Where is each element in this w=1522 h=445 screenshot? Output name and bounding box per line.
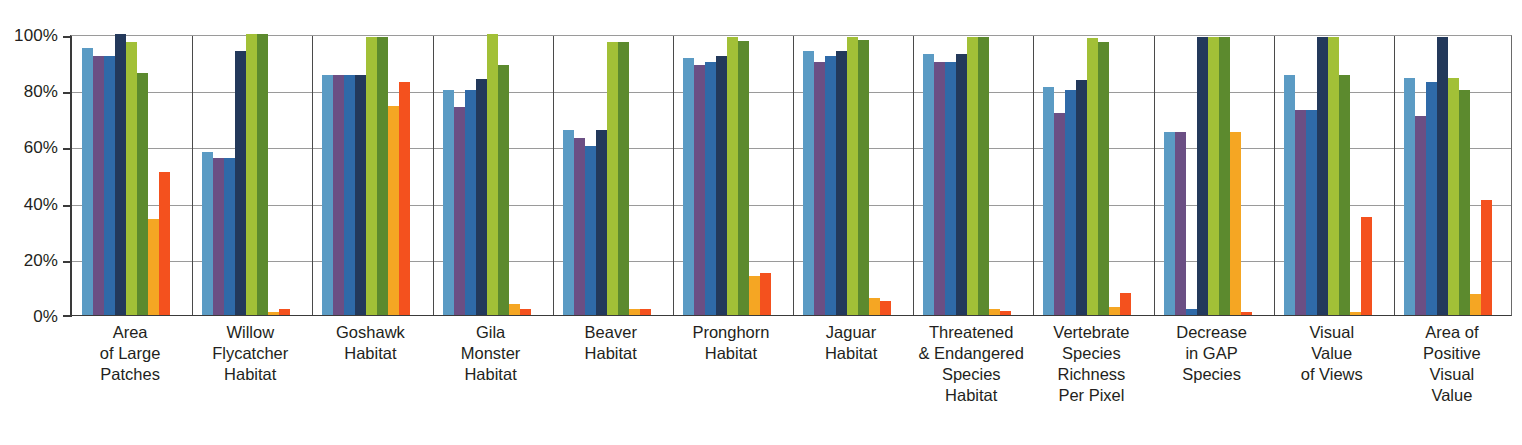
x-category-label-line: of Views	[1272, 364, 1392, 385]
x-category-label-line: Value	[1392, 385, 1512, 406]
bar	[1241, 312, 1252, 315]
bar-group	[683, 36, 771, 315]
bar	[465, 90, 476, 315]
y-tick-label: 20%	[24, 252, 58, 269]
bar	[1361, 217, 1372, 315]
bar	[1208, 37, 1219, 315]
x-category-label-line: Habitat	[190, 364, 310, 385]
y-tick-label: 100%	[14, 27, 58, 44]
bar	[1437, 37, 1448, 315]
bar	[476, 79, 487, 315]
bar	[956, 54, 967, 315]
bar	[574, 138, 585, 315]
y-tick-label: 80%	[24, 83, 58, 100]
x-category-label-line: Habitat	[911, 385, 1031, 406]
bar	[1098, 42, 1109, 315]
y-tick-label: 0%	[33, 308, 58, 325]
bar	[82, 48, 93, 315]
bar	[618, 42, 629, 315]
bar	[344, 75, 355, 315]
bar-group	[1164, 36, 1252, 315]
bar	[640, 309, 651, 315]
bar	[1175, 132, 1186, 315]
bar	[825, 56, 836, 315]
bar	[235, 51, 246, 315]
y-tick-label: 60%	[24, 139, 58, 156]
bar	[1230, 132, 1241, 315]
bar	[596, 130, 607, 315]
bar	[1481, 200, 1492, 315]
bar	[989, 309, 1000, 315]
bar	[520, 309, 531, 315]
bar	[509, 304, 520, 315]
bar	[355, 75, 366, 315]
bar	[148, 219, 159, 315]
x-category-label: GoshawkHabitat	[310, 322, 430, 364]
bar	[104, 56, 115, 315]
bar	[1000, 311, 1011, 315]
bar	[268, 312, 279, 315]
bar	[1426, 82, 1437, 315]
bar	[498, 65, 509, 315]
x-category-label-line: of Large	[70, 343, 190, 364]
bar	[814, 62, 825, 315]
bar-group	[923, 36, 1011, 315]
bar	[1415, 116, 1426, 316]
bar	[1448, 78, 1459, 315]
x-category-label-line: Area	[70, 322, 190, 343]
x-category-label-line: Beaver	[551, 322, 671, 343]
x-category-label-line: Species	[1031, 343, 1151, 364]
bar	[399, 82, 410, 315]
bar	[257, 34, 268, 315]
bar	[137, 73, 148, 315]
bar	[585, 146, 596, 315]
bar	[629, 309, 640, 315]
x-category-label-line: Habitat	[310, 343, 430, 364]
bar-group	[1404, 36, 1492, 315]
y-tick-label: 40%	[24, 196, 58, 213]
bar	[760, 273, 771, 315]
x-category-label-line: Area of	[1392, 322, 1512, 343]
bar	[322, 75, 333, 315]
x-axis-category-labels: Areaof LargePatchesWillowFlycatcherHabit…	[70, 322, 1512, 442]
bar	[749, 276, 760, 315]
x-category-label-line: Pronghorn	[671, 322, 791, 343]
top-edge-artifact	[74, 0, 264, 9]
bar	[934, 62, 945, 315]
bar	[224, 158, 235, 315]
bar	[1306, 110, 1317, 315]
x-category-label-line: Threatened	[911, 322, 1031, 343]
x-category-label: GilaMonsterHabitat	[431, 322, 551, 385]
bar	[978, 37, 989, 315]
bar	[1295, 110, 1306, 315]
bar	[213, 158, 224, 315]
bar	[1087, 38, 1098, 315]
bar	[388, 106, 399, 315]
bar	[716, 56, 727, 315]
x-category-label-line: Decrease	[1152, 322, 1272, 343]
x-category-label-line: Positive	[1392, 343, 1512, 364]
x-category-label-line: Per Pixel	[1031, 385, 1151, 406]
bar	[880, 301, 891, 315]
bar	[803, 51, 814, 315]
bar	[1284, 75, 1295, 315]
bar	[727, 37, 738, 315]
bar	[1186, 309, 1197, 315]
bar	[1470, 294, 1481, 315]
bar	[1219, 37, 1230, 315]
bar-group	[82, 36, 170, 315]
y-axis-tick	[63, 205, 72, 207]
bar	[1054, 113, 1065, 315]
x-category-label-line: & Endangered	[911, 343, 1031, 364]
bar-group	[1043, 36, 1131, 315]
bar	[1459, 90, 1470, 315]
x-category-label-line: Species	[1152, 364, 1272, 385]
x-category-label-line: Goshawk	[310, 322, 430, 343]
bar	[945, 62, 956, 315]
bar-group	[803, 36, 891, 315]
x-category-label: BeaverHabitat	[551, 322, 671, 364]
y-axis-tick-labels: 100%80%60%40%20%0%	[0, 22, 68, 322]
bar	[93, 56, 104, 315]
bar	[607, 42, 618, 315]
x-category-label: JaguarHabitat	[791, 322, 911, 364]
